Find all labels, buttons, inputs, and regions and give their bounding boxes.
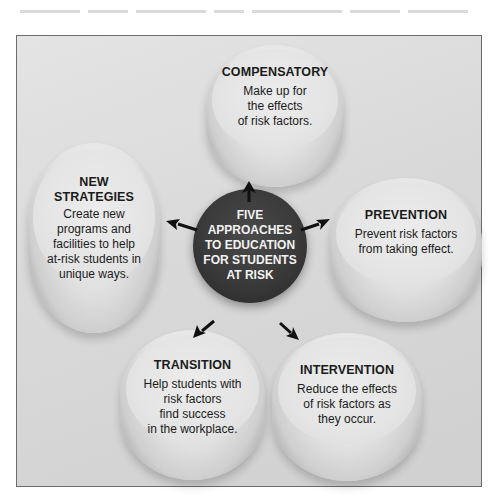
- disc-transition: TRANSITION Help students with risk facto…: [120, 330, 265, 480]
- cropped-text-fragment: [20, 2, 480, 14]
- disc-intervention: INTERVENTION Reduce the effects of risk …: [272, 333, 422, 481]
- center-hub: FIVE APPROACHES TO EDUCATION FOR STUDENT…: [193, 189, 307, 303]
- approach-title: COMPENSATORY: [206, 65, 344, 80]
- approach-title: PREVENTION: [330, 208, 482, 223]
- approach-title: TRANSITION: [120, 358, 265, 373]
- disc-prevention: PREVENTION Prevent risk factors from tak…: [330, 178, 482, 322]
- approach-description: Create new programs and facilities to he…: [28, 207, 160, 282]
- approach-title: NEW STRATEGIES: [28, 175, 160, 205]
- approach-title: INTERVENTION: [272, 363, 422, 378]
- approach-description: Reduce the effects of risk factors as th…: [272, 382, 422, 427]
- approach-description: Prevent risk factors from taking effect.: [330, 227, 482, 257]
- disc-new-strategies: NEW STRATEGIES Create new programs and f…: [28, 143, 160, 333]
- center-hub-label: FIVE APPROACHES TO EDUCATION FOR STUDENT…: [193, 208, 307, 283]
- disc-compensatory: COMPENSATORY Make up for the effects of …: [206, 45, 344, 187]
- approach-description: Make up for the effects of risk factors.: [206, 84, 344, 129]
- approach-description: Help students with risk factors find suc…: [120, 377, 265, 437]
